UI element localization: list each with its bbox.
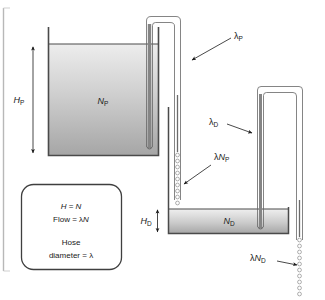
legend-line-flow: Flow = λN [53, 215, 89, 224]
hose-lower-label: λD [209, 117, 219, 128]
height-lower-label: HD [140, 216, 152, 227]
hose-lower-leader-line [227, 124, 252, 133]
hose-upper-leader-line [192, 38, 231, 60]
hydraulic-analogy-diagram: HP NP HD ND λP λD λNP λND [0, 0, 325, 300]
flow-upper-leader-line [184, 165, 211, 184]
lower-basin-group [169, 107, 289, 234]
legend-line-diameter: diameter = λ [49, 251, 93, 260]
hose-upper-label: λP [234, 31, 243, 42]
lower-droplet-stream [298, 238, 302, 296]
legend-box: H = N Flow = λN Hose diameter = λ [22, 185, 122, 270]
flow-upper-label: λNP [214, 152, 229, 163]
legend-line-hose: Hose [62, 238, 81, 247]
legend-line-h-equals-n: H = N [61, 202, 82, 211]
diagram-canvas: HP NP HD ND λP λD λNP λND [0, 0, 325, 300]
flow-lower-label: λND [250, 253, 266, 264]
height-upper-label: HP [14, 95, 25, 106]
upper-droplet-stream [176, 153, 180, 205]
upper-tank-group [48, 27, 159, 156]
flow-lower-leader-line [277, 261, 297, 265]
